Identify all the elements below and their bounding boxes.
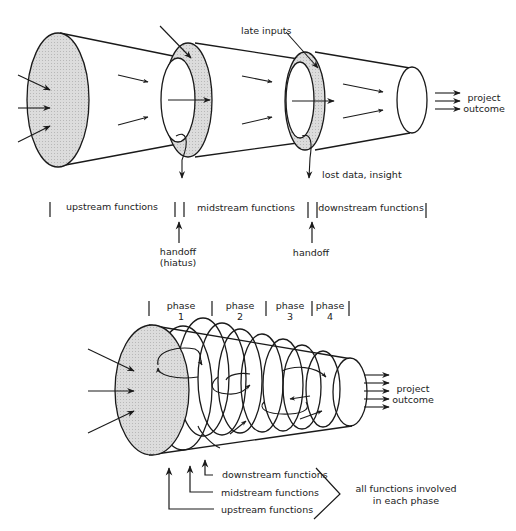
handoff-label: handoff xyxy=(293,247,330,258)
upstream-functions-label: upstream functions xyxy=(66,201,158,212)
phase-3-number: 3 xyxy=(287,311,293,322)
late-inputs-label: late inputs xyxy=(241,25,291,36)
legend-upstream: upstream functions xyxy=(221,504,313,515)
project-outcome-label-line1: project xyxy=(468,92,501,103)
phase-3-label: phase xyxy=(276,300,305,311)
phase-2-number: 2 xyxy=(237,311,243,322)
end-ellipse xyxy=(397,67,427,133)
project-outcome-bottom-line2: outcome xyxy=(392,394,434,405)
phase-1-number: 1 xyxy=(178,311,184,322)
phase-2-label: phase xyxy=(226,300,255,311)
downstream-functions-label: downstream functions xyxy=(318,202,424,213)
handoff-hiatus-label-line2: (hiatus) xyxy=(160,257,197,268)
project-outcome-bottom-line1: project xyxy=(397,383,430,394)
phase-1-label: phase xyxy=(167,300,196,311)
legend-downstream: downstream functions xyxy=(222,469,328,480)
legend-midstream: midstream functions xyxy=(221,487,319,498)
legend-summary-line2: in each phase xyxy=(373,495,439,506)
funnel-diagram: late inputs lost data, insight project o… xyxy=(0,0,516,531)
lost-data-label: lost data, insight xyxy=(322,169,402,180)
input-ellipse xyxy=(27,33,89,167)
legend-summary-line1: all functions involved xyxy=(355,483,456,494)
midstream-functions-label: midstream functions xyxy=(197,202,295,213)
sequential-funnel xyxy=(27,33,427,167)
phase-4-label: phase xyxy=(316,300,345,311)
project-outcome-label-line2: outcome xyxy=(463,103,505,114)
concurrent-funnel xyxy=(115,318,367,455)
phase-4-number: 4 xyxy=(327,311,333,322)
input-ellipse-bottom xyxy=(115,325,189,455)
handoff-hiatus-label-line1: handoff xyxy=(160,246,197,257)
